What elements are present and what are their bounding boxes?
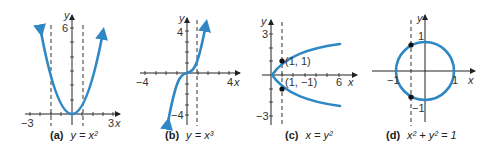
caption-c: (c) x = y² [285, 129, 333, 141]
y-axis-label: y [260, 15, 268, 27]
point-upper-label: (1, 1) [285, 55, 311, 67]
point-lower-label: (1, −1) [285, 76, 317, 88]
function-graphs-figure: −3 3 x 6 y (a) y = x² [0, 0, 493, 153]
caption-equation: y = x² [70, 129, 99, 141]
caption-a: (a) y = x² [50, 129, 98, 141]
x-max-label: 4 [227, 76, 233, 88]
caption-equation: y = x³ [185, 129, 214, 141]
x-min-label: −3 [21, 117, 34, 129]
y-min-label: −4 [171, 109, 184, 121]
y-axis-label: y [416, 12, 424, 24]
x-axis-label: x [347, 76, 354, 88]
x-max-label: 1 [452, 74, 458, 86]
x-axis-label: x [114, 117, 121, 129]
y-max-label: 1 [418, 30, 424, 42]
y-axis-label: y [178, 12, 186, 24]
graph-d: −1 1 x 1 −1 y (d) x² + y² = 1 [372, 12, 475, 141]
x-max-label: 3 [108, 117, 114, 129]
y-axis-label: y [63, 9, 71, 21]
point-1-1 [279, 58, 284, 63]
caption-tag: (a) [50, 129, 64, 141]
caption-equation: x = y² [305, 129, 334, 141]
point-upper [408, 42, 413, 47]
caption-d: (d) x² + y² = 1 [386, 129, 457, 141]
y-min-label: −1 [412, 102, 425, 114]
y-max-label: 6 [62, 22, 68, 34]
x-axis-label: x [233, 76, 240, 88]
caption-b: (b) y = x³ [165, 129, 214, 141]
graph-c: (1, 1) (1, −1) 6 x 3 −3 y (c) x = y² [256, 15, 357, 141]
caption-tag: (d) [386, 129, 400, 141]
graph-a: −3 3 x 6 y (a) y = x² [21, 9, 121, 141]
y-max-label: 3 [262, 28, 268, 40]
x-min-label: −1 [387, 74, 400, 86]
point-lower [408, 94, 413, 99]
graph-b: −4 4 x 4 −4 y (b) y = x³ [136, 12, 240, 141]
caption-equation: x² + y² = 1 [406, 129, 457, 141]
point-1-neg1 [279, 86, 284, 91]
y-max-label: 4 [177, 26, 183, 38]
x-axis-label: x [467, 74, 474, 86]
y-min-label: −3 [256, 110, 269, 122]
caption-tag: (b) [165, 129, 179, 141]
x-max-label: 6 [336, 76, 342, 88]
caption-tag: (c) [285, 129, 299, 141]
x-min-label: −4 [136, 76, 149, 88]
